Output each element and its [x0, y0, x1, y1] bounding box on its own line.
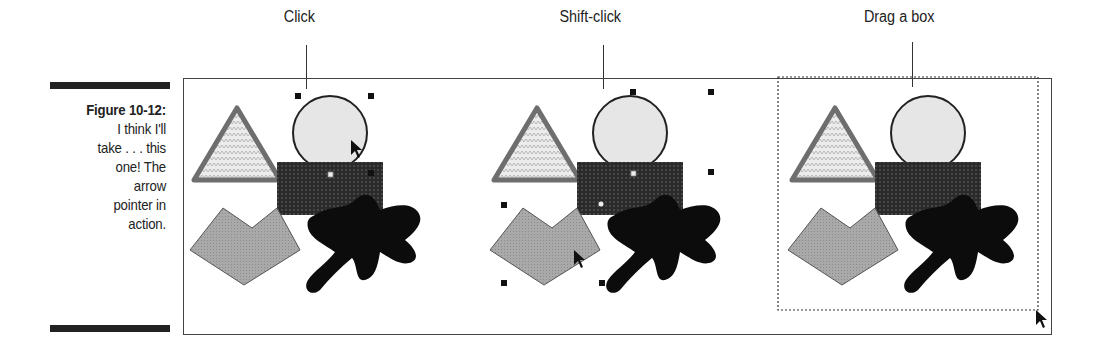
selection-handle: [708, 169, 714, 175]
selection-handle: [631, 171, 636, 176]
selection-handle: [368, 93, 374, 99]
panel-shift-click: [490, 89, 720, 293]
panel-drag-a-box: [778, 77, 1047, 328]
selection-handle: [295, 93, 301, 99]
selection-handle: [328, 172, 333, 177]
selection-handle: [599, 202, 604, 207]
selection-handle: [368, 170, 374, 176]
panel-click: [190, 93, 420, 293]
selection-handle: [708, 89, 714, 95]
selection-handle: [630, 89, 636, 95]
selection-handle: [501, 202, 507, 208]
shapes-illustration: [0, 0, 1106, 351]
arrow-pointer-icon: [1036, 310, 1047, 328]
selection-handle: [501, 280, 507, 286]
selection-handle: [599, 280, 605, 286]
